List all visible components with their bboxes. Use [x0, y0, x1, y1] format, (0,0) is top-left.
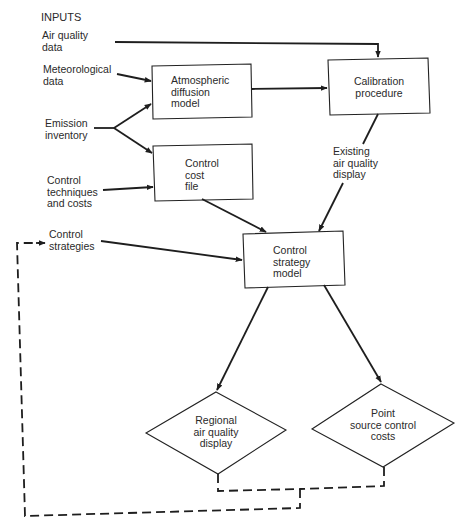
edge-meteorological-to-atmospheric: [117, 74, 151, 81]
existing-air-quality-display-label: Existing air quality display: [333, 146, 378, 181]
edge-cost-file-to-strategy: [202, 199, 266, 232]
calibration-procedure-label: Calibration procedure: [338, 76, 420, 99]
control-strategy-model-label: Control strategy model: [273, 245, 310, 280]
regional-air-quality-display-label: Regional air quality display: [176, 415, 256, 450]
feedback-loop-return: [17, 243, 300, 516]
edge-air-quality-to-calibration: [115, 42, 378, 57]
atmospheric-diffusion-model-label: Atmospheric diffusion model: [171, 75, 229, 110]
edge-emission-to-atmospheric: [114, 104, 151, 128]
input-emission-inventory: Emission inventory: [45, 118, 88, 141]
input-control-strategies: Control strategies: [49, 229, 95, 252]
edge-model-to-regional: [217, 287, 268, 390]
edge-strategies-to-model: [101, 241, 242, 260]
point-source-control-costs-label: Point source control costs: [335, 408, 431, 443]
edge-existing-to-strategy: [319, 183, 343, 231]
inputs-heading: INPUTS: [41, 12, 81, 24]
edge-techniques-to-cost-file: [103, 187, 153, 190]
input-meteorological-data: Meteorological data: [43, 64, 111, 87]
input-air-quality-data: Air quality data: [42, 30, 88, 53]
input-control-techniques: Control techniques and costs: [47, 175, 98, 210]
control-cost-file-label: Control cost file: [185, 158, 219, 193]
edge-calibration-to-existing: [363, 114, 378, 144]
edge-atmospheric-to-calibration: [252, 88, 327, 89]
edge-model-to-point-source: [324, 285, 381, 382]
feedback-point-source-branch: [300, 467, 384, 489]
edge-emission-to-cost-file: [114, 128, 152, 153]
feedback-regional-branch: [218, 474, 300, 491]
